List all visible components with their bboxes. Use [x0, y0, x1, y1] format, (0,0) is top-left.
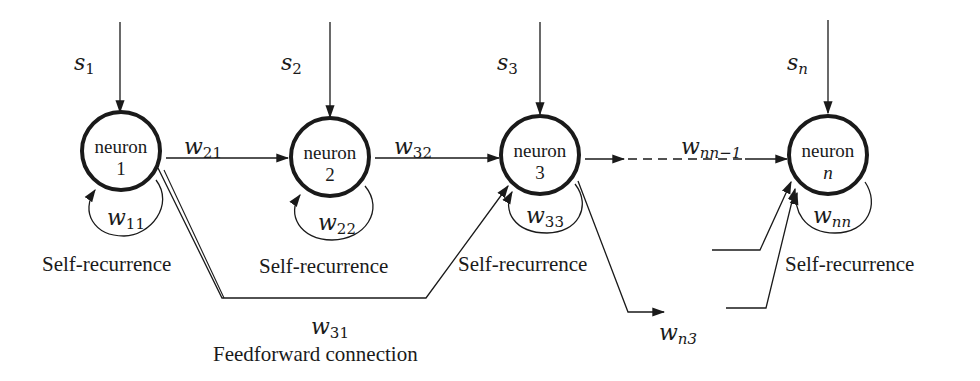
weight-label-w21: w21 [184, 136, 222, 161]
neuron-2-label: neuron 2 [285, 142, 375, 186]
input-label-s3: s3 [497, 52, 518, 77]
feedforward-caption: Feedforward connection [213, 344, 418, 365]
neuron-1-label: neuron 1 [76, 136, 166, 180]
self-weight-w11: w11 [107, 207, 145, 232]
neuron-index: 1 [76, 158, 166, 180]
input-label-s1: s1 [74, 52, 95, 77]
input-label-s2: s2 [281, 52, 302, 77]
neuron-word: neuron [802, 140, 855, 161]
neuron-index: 2 [285, 164, 375, 186]
self-weight-w33: w33 [526, 205, 564, 230]
edge-wn3 [578, 181, 664, 312]
weight-label-w32: w32 [394, 136, 432, 161]
self-recurrence-label-1: Self-recurrence [42, 254, 171, 275]
self-recurrence-label-n: Self-recurrence [785, 254, 914, 275]
self-weight-w22: w22 [318, 212, 356, 237]
weight-label-w31: w31 [311, 316, 349, 341]
self-recurrence-label-3: Self-recurrence [458, 254, 587, 275]
network-diagram [0, 0, 980, 381]
neuron-index: 3 [495, 162, 585, 184]
self-recurrence-label-2: Self-recurrence [259, 256, 388, 277]
neuron-word: neuron [514, 140, 567, 161]
weight-label-wnn-1: wnn−1 [681, 136, 741, 161]
neuron-word: neuron [95, 136, 148, 157]
neuron-word: neuron [304, 142, 357, 163]
input-label-sn: sn [787, 52, 808, 77]
neuron-3-label: neuron 3 [495, 140, 585, 184]
edge-w31-shadow [164, 170, 224, 298]
neuron-n-label: neuron n [783, 140, 873, 184]
self-weight-wnn: wnn [813, 205, 851, 230]
weight-label-wn3: wn3 [659, 322, 697, 347]
neuron-index: n [783, 162, 873, 184]
incoming-edge-n-a [712, 182, 791, 250]
